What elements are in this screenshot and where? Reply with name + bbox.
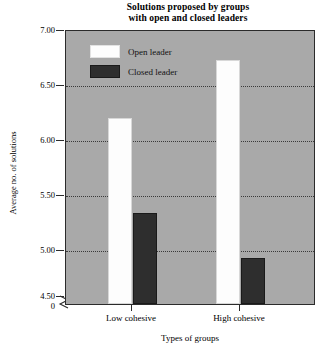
gridline-6-50 — [66, 86, 314, 87]
legend-item-closed-leader: Closed leader — [90, 65, 177, 78]
x-tick-label-high-cohesive: High cohesive — [213, 313, 265, 323]
y-tick-label-6-00: 6.00 — [40, 135, 55, 145]
legend-label-open-leader: Open leader — [128, 47, 172, 57]
x-tick-mark-low-cohesive — [131, 305, 132, 311]
y-axis-title: Average no. of solutions — [8, 98, 18, 248]
chart-title-line-1: Solutions proposed by groups — [127, 2, 250, 12]
y-tick-label-5-50: 5.50 — [40, 190, 55, 200]
gridline-5-50 — [66, 196, 314, 197]
y-tick-label-7-00: 7.00 — [40, 25, 55, 35]
y-tick-mark-5-50 — [56, 195, 64, 196]
y-tick-label-0: 0 — [51, 301, 55, 311]
y-tick-mark-5-00 — [56, 250, 64, 251]
legend-swatch-open-leader — [90, 45, 120, 58]
chart-title: Solutions proposed by groups with open a… — [60, 2, 316, 24]
chart-figure: Solutions proposed by groups with open a… — [0, 0, 326, 351]
bar-open-leader-high-cohesive — [216, 60, 240, 304]
legend-item-open-leader: Open leader — [90, 45, 177, 58]
y-tick-mark-7-00 — [56, 30, 64, 31]
y-tick-label-6-50: 6.50 — [40, 80, 55, 90]
x-tick-label-low-cohesive: Low cohesive — [106, 313, 156, 323]
y-tick-label-4-50: 4.50 — [40, 291, 55, 301]
plot-area: Open leader Closed leader — [65, 30, 315, 305]
legend-swatch-closed-leader — [90, 65, 120, 78]
gridline-6-00 — [66, 141, 314, 142]
y-tick-mark-6-00 — [56, 140, 64, 141]
x-tick-mark-high-cohesive — [239, 305, 240, 311]
gridline-5-00 — [66, 251, 314, 252]
chart-legend: Open leader Closed leader — [90, 45, 177, 85]
x-axis-title: Types of groups — [65, 333, 315, 343]
chart-title-line-2: with open and closed leaders — [60, 13, 316, 24]
bar-closed-leader-low-cohesive — [133, 213, 157, 304]
y-tick-mark-6-50 — [56, 85, 64, 86]
bar-closed-leader-high-cohesive — [241, 258, 265, 304]
y-tick-label-5-00: 5.00 — [40, 245, 55, 255]
bar-open-leader-low-cohesive — [108, 118, 132, 304]
legend-label-closed-leader: Closed leader — [128, 67, 177, 77]
y-axis: 7.00 6.50 6.00 5.50 5.00 4.50 0 Average … — [0, 0, 65, 351]
